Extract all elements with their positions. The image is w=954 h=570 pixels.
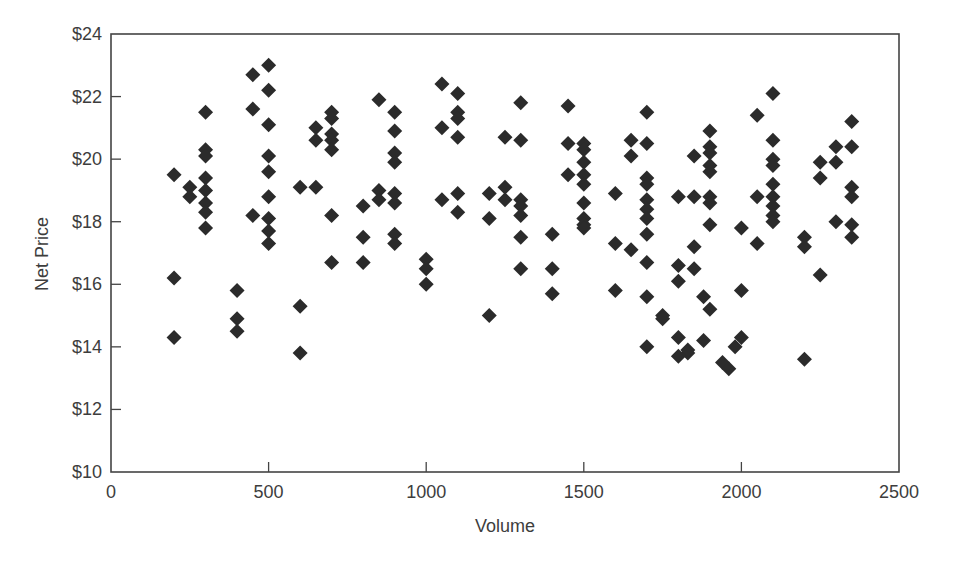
diamond-marker-icon: [387, 123, 402, 138]
diamond-marker-icon: [624, 133, 639, 148]
diamond-marker-icon: [639, 211, 654, 226]
diamond-marker-icon: [182, 189, 197, 204]
diamond-marker-icon: [513, 261, 528, 276]
diamond-marker-icon: [687, 239, 702, 254]
diamond-marker-icon: [167, 330, 182, 345]
diamond-marker-icon: [450, 130, 465, 145]
diamond-marker-icon: [230, 283, 245, 298]
diamond-marker-icon: [387, 105, 402, 120]
diamond-marker-icon: [261, 189, 276, 204]
diamond-marker-icon: [844, 189, 859, 204]
x-axis-title: Volume: [475, 516, 535, 536]
diamond-marker-icon: [324, 208, 339, 223]
plot-frame: [111, 34, 899, 472]
diamond-marker-icon: [639, 255, 654, 270]
diamond-marker-icon: [513, 95, 528, 110]
diamond-marker-icon: [765, 86, 780, 101]
x-tick-label: 0: [106, 482, 116, 502]
diamond-marker-icon: [167, 271, 182, 286]
diamond-marker-icon: [687, 189, 702, 204]
diamond-marker-icon: [844, 114, 859, 129]
diamond-marker-icon: [482, 186, 497, 201]
diamond-marker-icon: [639, 105, 654, 120]
scatter-chart: 05001000150020002500 $10$12$14$16$18$20$…: [0, 0, 954, 570]
diamond-marker-icon: [513, 230, 528, 245]
diamond-marker-icon: [308, 180, 323, 195]
diamond-marker-icon: [702, 123, 717, 138]
diamond-marker-icon: [498, 130, 513, 145]
diamond-marker-icon: [513, 208, 528, 223]
diamond-marker-icon: [324, 255, 339, 270]
diamond-marker-icon: [356, 199, 371, 214]
y-tick-label: $10: [72, 462, 102, 482]
diamond-marker-icon: [750, 189, 765, 204]
diamond-marker-icon: [371, 192, 386, 207]
diamond-marker-icon: [261, 58, 276, 73]
diamond-marker-icon: [671, 258, 686, 273]
diamond-marker-icon: [828, 214, 843, 229]
diamond-marker-icon: [419, 261, 434, 276]
diamond-marker-icon: [450, 86, 465, 101]
diamond-marker-icon: [261, 164, 276, 179]
diamond-marker-icon: [482, 211, 497, 226]
diamond-marker-icon: [293, 299, 308, 314]
diamond-marker-icon: [545, 261, 560, 276]
diamond-marker-icon: [750, 236, 765, 251]
x-axis: 05001000150020002500: [106, 462, 919, 502]
diamond-marker-icon: [293, 180, 308, 195]
diamond-marker-icon: [734, 283, 749, 298]
y-tick-label: $16: [72, 274, 102, 294]
y-tick-label: $22: [72, 87, 102, 107]
diamond-marker-icon: [561, 136, 576, 151]
diamond-marker-icon: [261, 236, 276, 251]
diamond-marker-icon: [356, 255, 371, 270]
diamond-marker-icon: [387, 195, 402, 210]
diamond-marker-icon: [813, 155, 828, 170]
diamond-marker-icon: [324, 142, 339, 157]
y-tick-label: $18: [72, 212, 102, 232]
diamond-marker-icon: [293, 346, 308, 361]
diamond-marker-icon: [797, 239, 812, 254]
diamond-marker-icon: [813, 267, 828, 282]
diamond-marker-icon: [624, 149, 639, 164]
x-tick-label: 1500: [564, 482, 604, 502]
y-tick-label: $20: [72, 149, 102, 169]
diamond-marker-icon: [734, 220, 749, 235]
diamond-marker-icon: [608, 283, 623, 298]
diamond-marker-icon: [671, 189, 686, 204]
diamond-marker-icon: [450, 205, 465, 220]
diamond-marker-icon: [261, 149, 276, 164]
diamond-marker-icon: [419, 277, 434, 292]
diamond-marker-icon: [371, 92, 386, 107]
x-tick-label: 1000: [406, 482, 446, 502]
diamond-marker-icon: [844, 139, 859, 154]
diamond-marker-icon: [245, 102, 260, 117]
diamond-marker-icon: [639, 289, 654, 304]
diamond-marker-icon: [576, 177, 591, 192]
diamond-marker-icon: [261, 83, 276, 98]
chart-canvas: 05001000150020002500 $10$12$14$16$18$20$…: [0, 0, 954, 570]
diamond-marker-icon: [498, 192, 513, 207]
diamond-marker-icon: [702, 302, 717, 317]
diamond-marker-icon: [696, 289, 711, 304]
plot-border: [111, 34, 899, 472]
diamond-marker-icon: [545, 286, 560, 301]
diamond-marker-icon: [702, 217, 717, 232]
diamond-marker-icon: [198, 205, 213, 220]
y-axis: $10$12$14$16$18$20$22$24: [72, 24, 121, 482]
diamond-marker-icon: [687, 149, 702, 164]
diamond-marker-icon: [608, 186, 623, 201]
diamond-marker-icon: [696, 333, 711, 348]
diamond-marker-icon: [624, 242, 639, 257]
diamond-marker-icon: [387, 236, 402, 251]
diamond-marker-icon: [261, 117, 276, 132]
diamond-marker-icon: [387, 155, 402, 170]
y-tick-label: $24: [72, 24, 102, 44]
y-tick-label: $12: [72, 399, 102, 419]
diamond-marker-icon: [797, 352, 812, 367]
diamond-marker-icon: [356, 230, 371, 245]
diamond-marker-icon: [608, 236, 623, 251]
diamond-marker-icon: [844, 230, 859, 245]
diamond-marker-icon: [434, 77, 449, 92]
diamond-marker-icon: [230, 324, 245, 339]
